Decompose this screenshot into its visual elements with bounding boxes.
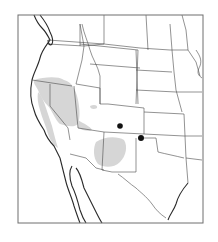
range-areas xyxy=(34,77,126,166)
border-north-south-dakota xyxy=(136,70,172,72)
border-oklahoma-texas xyxy=(144,138,184,158)
utah-patch xyxy=(90,105,97,109)
border-dakotas-minnesota xyxy=(170,24,182,112)
border-louisiana-texas xyxy=(186,158,188,183)
point-records xyxy=(117,123,144,141)
border-south-dakota-nebraska xyxy=(136,90,176,92)
border-idaho-montana xyxy=(82,24,100,76)
arizona-new-mexico-range xyxy=(94,137,126,167)
range-map xyxy=(0,0,218,242)
border-arkansas-louisiana xyxy=(186,158,202,160)
border-nebraska-kansas xyxy=(144,112,184,114)
coastline-mainland-gulf-coast xyxy=(76,168,102,223)
border-idaho-utah-wyoming xyxy=(76,84,100,104)
coastline-baja-gulf-coast xyxy=(70,166,86,223)
coastline-texas-gulf-coast xyxy=(168,183,188,220)
border-great-lakes-edge xyxy=(196,50,202,78)
border-kansas-oklahoma xyxy=(144,134,184,136)
colorado-record-marker xyxy=(117,123,123,129)
coastlines xyxy=(31,15,188,223)
border-minnesota-wisconsin xyxy=(182,15,188,50)
coastline-baja-outer-coast xyxy=(60,158,80,223)
border-texas-mexico-border xyxy=(118,174,166,218)
oklahoma-panhandle-record-marker xyxy=(138,135,144,141)
map-canvas xyxy=(0,0,218,242)
border-north-dakota-minnesota-border xyxy=(146,15,148,50)
